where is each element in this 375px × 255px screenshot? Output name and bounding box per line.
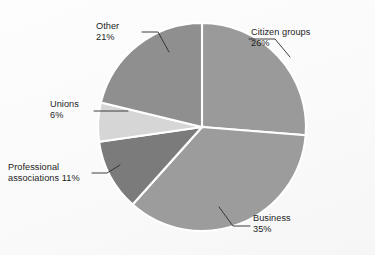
slice-label-business-name: Business bbox=[253, 213, 291, 223]
pie-chart-figure: Citizen groups 26% Other 21% Unions 6% P… bbox=[0, 0, 375, 255]
slice-label-unions-percent: 6% bbox=[50, 110, 79, 121]
slice-label-citizen-groups: Citizen groups 26% bbox=[251, 27, 310, 50]
slice-label-citizen-groups-name: Citizen groups bbox=[251, 27, 310, 37]
slice-label-professional-associations-line1: Professional bbox=[8, 162, 59, 172]
slice-label-business: Business 35% bbox=[253, 213, 291, 236]
slice-label-unions-name: Unions bbox=[50, 99, 79, 109]
slice-label-unions: Unions 6% bbox=[50, 99, 79, 122]
slice-label-other-percent: 21% bbox=[96, 32, 119, 43]
slice-label-citizen-groups-percent: 26% bbox=[251, 38, 310, 49]
pie-slices bbox=[98, 23, 306, 231]
slice-label-business-percent: 35% bbox=[253, 224, 291, 235]
slice-label-other: Other 21% bbox=[96, 21, 119, 44]
slice-label-other-name: Other bbox=[96, 21, 119, 31]
slice-label-professional-associations-line2: associations 11% bbox=[8, 173, 80, 184]
slice-label-professional-associations: Professional associations 11% bbox=[8, 162, 80, 185]
pie-chart-canvas bbox=[0, 0, 375, 255]
